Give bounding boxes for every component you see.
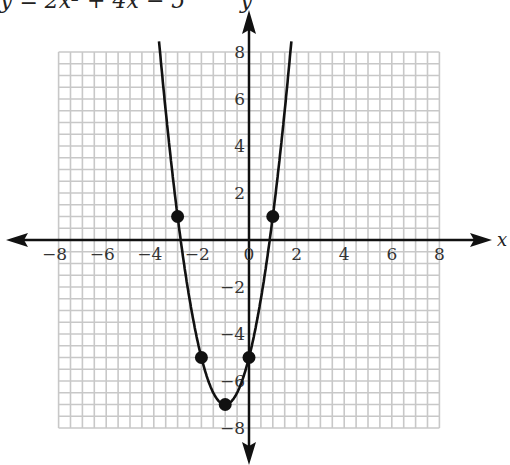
svg-text:−4: −4 bbox=[220, 324, 245, 344]
svg-text:6: 6 bbox=[386, 244, 397, 264]
axes bbox=[6, 10, 492, 465]
svg-text:−4: −4 bbox=[137, 244, 162, 264]
x-axis-label: x bbox=[497, 229, 507, 250]
coordinate-plane: x−8−6−4−202468−8−6−4−22468 bbox=[0, 0, 510, 465]
svg-text:0: 0 bbox=[244, 244, 255, 264]
data-point bbox=[171, 210, 184, 223]
svg-text:8: 8 bbox=[234, 42, 245, 62]
data-point bbox=[266, 210, 279, 223]
data-point bbox=[195, 351, 208, 364]
svg-text:−8: −8 bbox=[220, 418, 245, 438]
svg-text:4: 4 bbox=[339, 244, 350, 264]
data-point bbox=[219, 398, 232, 411]
svg-text:−6: −6 bbox=[90, 244, 115, 264]
svg-text:−8: −8 bbox=[42, 244, 67, 264]
svg-text:2: 2 bbox=[234, 183, 245, 203]
svg-text:−2: −2 bbox=[185, 244, 210, 264]
svg-text:6: 6 bbox=[234, 89, 245, 109]
svg-text:8: 8 bbox=[434, 244, 445, 264]
svg-text:4: 4 bbox=[234, 136, 245, 156]
svg-text:−2: −2 bbox=[220, 277, 245, 297]
svg-text:2: 2 bbox=[291, 244, 302, 264]
data-point bbox=[243, 351, 256, 364]
